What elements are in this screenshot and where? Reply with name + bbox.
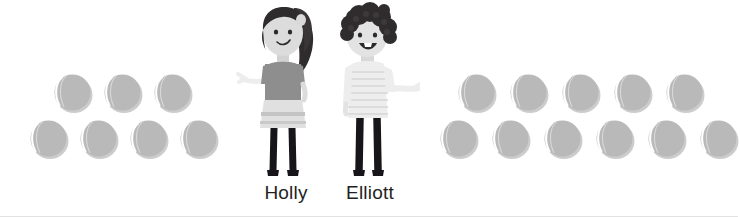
ball-group-elliott	[436, 0, 738, 217]
tennis-ball-icon	[594, 118, 636, 160]
elliott-figure-icon	[320, 0, 420, 186]
tennis-ball-icon	[102, 72, 144, 114]
character-elliott: Elliott	[320, 0, 420, 217]
tennis-ball-icon	[664, 72, 706, 114]
tennis-ball-icon	[646, 118, 688, 160]
tennis-ball-icon	[508, 72, 550, 114]
character-name-elliott: Elliott	[320, 182, 420, 204]
tennis-ball-icon	[560, 72, 602, 114]
ball-row	[28, 118, 220, 160]
tennis-ball-icon	[438, 118, 480, 160]
tennis-ball-icon	[28, 118, 70, 160]
tennis-ball-icon	[490, 118, 532, 160]
tennis-ball-icon	[52, 72, 94, 114]
tennis-ball-icon	[78, 118, 120, 160]
tennis-ball-icon	[456, 72, 498, 114]
characters-group: Holly	[236, 0, 436, 217]
ball-row	[52, 72, 194, 114]
tennis-ball-icon	[178, 118, 220, 160]
tennis-ball-icon	[152, 72, 194, 114]
tennis-ball-icon	[698, 118, 740, 160]
ball-row	[456, 72, 706, 114]
tennis-ball-icon	[128, 118, 170, 160]
tennis-ball-icon	[612, 72, 654, 114]
tennis-ball-icon	[542, 118, 584, 160]
ball-group-holly	[0, 0, 240, 217]
ball-row	[438, 118, 740, 160]
